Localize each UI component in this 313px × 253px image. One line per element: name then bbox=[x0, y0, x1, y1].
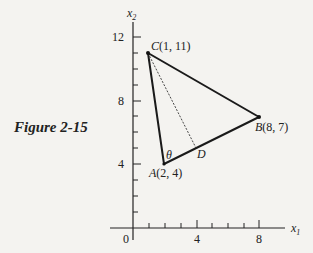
point-c bbox=[146, 51, 150, 55]
triangle-diagram: C(1, 11) B(8, 7) A(2, 4) D θ 12 8 4 0 4 … bbox=[0, 0, 313, 253]
origin-label: 0 bbox=[123, 232, 129, 246]
y-tick-8: 8 bbox=[118, 94, 124, 108]
x-tick-8: 8 bbox=[256, 232, 262, 246]
angle-theta: θ bbox=[166, 148, 172, 162]
x-ticks bbox=[149, 220, 259, 228]
y-axis-label: x2 bbox=[126, 6, 136, 22]
y-ticks bbox=[133, 37, 141, 212]
label-c: C(1, 11) bbox=[151, 39, 191, 53]
y-tick-12: 12 bbox=[112, 30, 124, 44]
x-axis-label: x1 bbox=[290, 221, 300, 237]
label-a: A(2, 4) bbox=[148, 166, 182, 180]
label-d: D bbox=[196, 147, 206, 161]
x-tick-4: 4 bbox=[194, 232, 200, 246]
y-tick-4: 4 bbox=[118, 157, 124, 171]
point-b bbox=[257, 115, 261, 119]
label-b: B(8, 7) bbox=[255, 120, 288, 134]
